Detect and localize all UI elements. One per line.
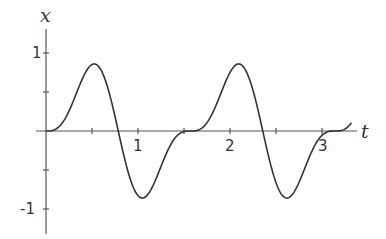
x-tick-label-2: 2 (225, 137, 235, 155)
y-axis-label: x (40, 4, 51, 26)
y-tick-label-neg1: -1 (20, 200, 35, 218)
x-tick-label-1: 1 (133, 137, 143, 155)
x-tick-label-3: 3 (318, 137, 328, 155)
y-tick-label-1: 1 (32, 44, 42, 62)
x-axis-label: t (361, 120, 369, 142)
line-chart: 1 2 3 1 -1 x t (0, 0, 386, 239)
